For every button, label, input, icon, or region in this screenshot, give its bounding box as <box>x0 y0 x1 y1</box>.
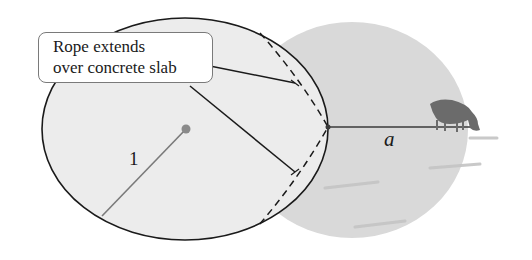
callout-line-1: Rope extends <box>53 36 212 57</box>
center-dot <box>182 125 191 134</box>
callout-box: Rope extends over concrete slab <box>38 32 213 83</box>
radius-label: 1 <box>129 148 139 170</box>
rope-anchor <box>326 125 331 130</box>
rope-length-label: a <box>384 127 395 152</box>
callout-line-2: over concrete slab <box>53 57 212 78</box>
